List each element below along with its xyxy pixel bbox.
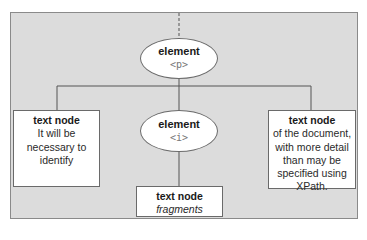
text-node-line: It will be <box>14 127 99 140</box>
text-node-left: text node It will be necessary to identi… <box>13 110 100 187</box>
element-node-label: element <box>141 118 217 131</box>
text-node-right: text node of the document, with more det… <box>268 110 356 189</box>
element-node-tag: <p> <box>141 58 217 71</box>
text-node-line: necessary to <box>14 141 99 154</box>
element-node-i: element <i> <box>140 110 218 152</box>
text-node-bottom: text node fragments <box>136 186 223 217</box>
text-node-line: fragments <box>137 203 222 216</box>
text-node-line: XPath. <box>269 180 355 193</box>
element-node-tag: <i> <box>141 131 217 144</box>
text-node-line: with more detail <box>269 141 355 154</box>
element-node-p: element <p> <box>140 38 218 79</box>
element-node-label: element <box>141 45 217 58</box>
text-node-label: text node <box>137 190 222 203</box>
text-node-label: text node <box>14 114 99 127</box>
text-node-line: than may be <box>269 154 355 167</box>
text-node-label: text node <box>269 114 355 127</box>
text-node-line: identify <box>14 154 99 167</box>
text-node-line: of the document, <box>269 127 355 140</box>
text-node-line: specified using <box>269 167 355 180</box>
